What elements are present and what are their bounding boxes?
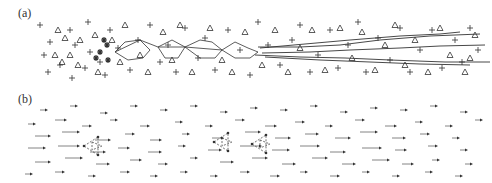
cluster-node	[265, 134, 268, 137]
arrow-head	[132, 133, 135, 136]
displacement-arrow-icon	[178, 145, 186, 148]
displacement-arrow-icon	[208, 149, 222, 152]
arrow-head	[274, 125, 277, 128]
plus-marker-icon	[225, 27, 231, 33]
arrow-head	[30, 173, 33, 176]
cluster-node	[265, 152, 268, 155]
displacement-arrow-icon	[420, 133, 430, 136]
triangle-marker-icon	[402, 62, 408, 68]
displacement-arrow-icon	[58, 145, 80, 148]
arrow-head	[367, 171, 370, 174]
arrow-head	[210, 125, 213, 128]
arrow-head	[457, 137, 460, 140]
displacement-arrow-icon	[362, 171, 370, 174]
triangle-marker-icon	[55, 27, 61, 33]
displacement-arrow-icon	[88, 175, 96, 178]
arrow-head	[325, 157, 328, 160]
arrow-head	[387, 159, 390, 162]
arrow-head	[159, 151, 162, 154]
arrow-head	[64, 119, 67, 122]
displacement-arrow-icon	[452, 137, 460, 140]
panel-b: (b)	[0, 88, 492, 183]
displacement-arrow-icon	[475, 119, 483, 122]
triangle-marker-icon	[77, 37, 83, 43]
arrow-head	[231, 161, 234, 164]
displacement-arrow-icon	[125, 133, 135, 136]
triangle-marker-icon	[137, 52, 143, 58]
plus-marker-icon	[363, 69, 369, 75]
arrow-head	[165, 163, 168, 166]
plus-marker-icon	[429, 27, 435, 33]
triangle-marker-icon	[95, 69, 101, 75]
plus-marker-icon	[247, 72, 253, 78]
displacement-arrow-icon	[35, 161, 51, 164]
plus-marker-icon	[407, 69, 413, 75]
displacement-arrow-icon	[432, 159, 440, 162]
arrow-head	[430, 171, 433, 174]
arrow-head	[437, 159, 440, 162]
displacement-arrow-icon	[430, 105, 438, 108]
displacement-arrow-icon	[340, 111, 348, 114]
displacement-arrow-icon	[28, 123, 36, 126]
displacement-arrow-icon	[220, 111, 228, 114]
arrow-head	[103, 151, 106, 154]
triangle-marker-icon	[62, 35, 68, 41]
arrow-head	[330, 125, 333, 128]
displacement-arrow-icon	[455, 175, 463, 178]
arrow-head	[115, 119, 118, 122]
displacement-arrow-icon	[245, 131, 261, 134]
triangle-marker-icon	[437, 25, 443, 31]
displacement-arrow-icon	[395, 149, 407, 152]
cluster-node	[213, 141, 216, 144]
displacement-arrow-icon	[312, 157, 328, 160]
displacement-arrow-icon	[40, 109, 48, 112]
arrow-head	[316, 133, 319, 136]
displacement-arrow-icon	[140, 125, 150, 128]
trajectory-line	[262, 45, 485, 53]
plus-marker-icon	[345, 42, 351, 48]
arrow-head	[353, 163, 356, 166]
plus-marker-icon	[255, 19, 261, 25]
plus-marker-icon	[297, 22, 303, 28]
arrow-head	[375, 107, 378, 110]
plus-marker-icon	[102, 72, 108, 78]
triangle-marker-icon	[359, 29, 365, 35]
displacement-arrow-icon	[342, 163, 356, 166]
displacement-arrow-icon	[335, 137, 351, 140]
plus-marker-icon	[107, 27, 113, 33]
displacement-arrow-icon	[95, 139, 111, 142]
arrow-head	[93, 175, 96, 178]
arrow-head	[348, 137, 351, 140]
arrow-head	[293, 163, 296, 166]
panel-b-plot	[0, 88, 492, 183]
displacement-arrow-icon	[385, 125, 397, 128]
arrow-head	[127, 171, 130, 174]
arrow-head	[302, 121, 305, 124]
triangle-marker-icon	[462, 69, 468, 75]
displacement-arrow-icon	[300, 145, 320, 148]
displacement-arrow-icon	[282, 163, 296, 166]
displacement-arrow-icon	[362, 147, 382, 150]
arrow-head	[108, 139, 111, 142]
arrow-head	[379, 147, 382, 150]
triangle-marker-icon	[242, 29, 248, 35]
cluster-triangle	[83, 136, 102, 157]
arrow-head	[247, 171, 250, 174]
triangle-marker-icon	[259, 62, 265, 68]
displacement-arrow-icon	[55, 119, 67, 122]
arrow-head	[405, 109, 408, 112]
arrow-head	[185, 171, 188, 174]
arrow-head	[77, 145, 80, 148]
plus-marker-icon	[157, 59, 163, 65]
triangle-marker-icon	[59, 59, 65, 65]
displacement-arrow-icon	[275, 137, 291, 140]
panel-a-plot	[0, 0, 492, 88]
displacement-arrow-icon	[330, 175, 340, 178]
cluster-node	[97, 154, 100, 157]
arrow-head	[48, 135, 51, 138]
displacement-arrow-icon	[400, 109, 408, 112]
triangle-marker-icon	[92, 32, 98, 38]
displacement-arrow-icon	[370, 107, 378, 110]
triangle-marker-icon	[309, 27, 315, 33]
arrow-head	[195, 105, 198, 108]
